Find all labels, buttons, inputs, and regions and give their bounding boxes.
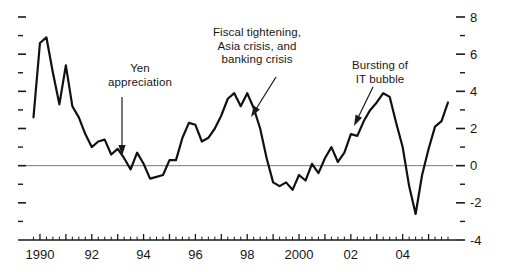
y-axis-tick-label: 0 [470,158,477,173]
x-axis-tick-label: 98 [240,247,254,262]
y-axis-tick-label: -4 [470,233,482,248]
annotation-it-bubble: Bursting ofIT bubble [290,59,470,86]
x-axis-tick-label: 02 [344,247,358,262]
annotation-line: Asia crisis, and [167,40,347,54]
y-axis-tick-label: 6 [470,47,477,62]
x-axis-tick-label: 04 [395,247,409,262]
x-axis-tick-label: 1990 [25,247,54,262]
annotation-line: IT bubble [290,73,470,87]
x-axis-tick-label: 2000 [285,247,314,262]
y-axis-tick-label: 8 [470,10,477,25]
y-axis-tick-label: 2 [470,121,477,136]
chart-container: 1990929496982000020486420-2-4 Yenappreci… [0,0,510,272]
annotation-arrow-shaft-it-bubble [358,87,373,119]
annotation-arrow-shaft-fiscal-tightening [255,77,276,110]
annotation-line: appreciation [50,76,230,90]
x-axis-tick-label: 94 [136,247,150,262]
x-axis-tick-label: 92 [85,247,99,262]
annotation-arrow-head-it-bubble [354,115,362,126]
annotation-line: Bursting of [290,59,470,73]
y-axis-tick-label: -2 [470,195,482,210]
x-axis-tick-label: 96 [188,247,202,262]
annotation-line: Fiscal tightening, [167,26,347,40]
y-axis-tick-label: 4 [470,84,477,99]
